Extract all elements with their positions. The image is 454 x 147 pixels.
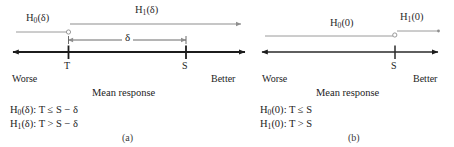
hypothesis-h0: H0(δ): T ≤ S − δ bbox=[10, 105, 78, 117]
hypothesis-h0: H0(0): T ≤ S bbox=[260, 105, 312, 117]
axis-left-label: Worse bbox=[262, 74, 287, 84]
delta-label: δ bbox=[122, 32, 133, 43]
h0-region-line bbox=[16, 30, 71, 34]
figure-container: H0(δ) H1(δ) δ T S Worse Better Mean resp… bbox=[0, 0, 454, 147]
main-axis bbox=[262, 46, 438, 60]
panel-b: H0(0) H1(0) S Worse Better Mean response… bbox=[250, 0, 454, 147]
axis-right-label: Better bbox=[211, 74, 235, 84]
axis-left-label: Worse bbox=[12, 74, 37, 84]
h1-region-label: H1(δ) bbox=[135, 5, 158, 17]
h1-region-line bbox=[397, 30, 440, 33]
main-axis bbox=[13, 46, 245, 60]
axis-right-label: Better bbox=[413, 74, 437, 84]
panel-a: H0(δ) H1(δ) δ T S Worse Better Mean resp… bbox=[0, 0, 250, 147]
hypothesis-h1: H1(0): T > S bbox=[260, 119, 312, 131]
tick-label-T: T bbox=[64, 61, 70, 71]
tick-label-S: S bbox=[182, 61, 188, 71]
axis-title: Mean response bbox=[316, 88, 379, 99]
caption-a: (a) bbox=[122, 133, 133, 143]
h1-region-label: H1(0) bbox=[400, 12, 424, 24]
tick-label-S: S bbox=[391, 61, 397, 71]
axis-title: Mean response bbox=[92, 88, 155, 99]
h0-region-label: H0(0) bbox=[330, 18, 354, 30]
h0-region-line bbox=[265, 33, 397, 37]
caption-b: (b) bbox=[348, 133, 360, 143]
hypothesis-h1: H1(δ): T > S − δ bbox=[10, 119, 78, 131]
h0-region-label: H0(δ) bbox=[26, 13, 49, 25]
